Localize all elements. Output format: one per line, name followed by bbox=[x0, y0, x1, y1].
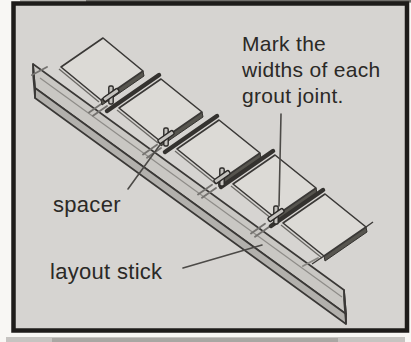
note-line-1: Mark the bbox=[242, 31, 380, 57]
note-line-2: widths of each bbox=[242, 57, 380, 83]
grout-joint-note: Mark the widths of each grout joint. bbox=[242, 31, 380, 109]
note-line-3: grout joint. bbox=[242, 83, 380, 109]
illustration-page: Mark the widths of each grout joint. spa… bbox=[0, 0, 411, 342]
spacer-label: spacer bbox=[53, 192, 121, 218]
page-edge-artifact-bottom-dark bbox=[52, 338, 338, 342]
layout-stick-label: layout stick bbox=[50, 259, 162, 285]
